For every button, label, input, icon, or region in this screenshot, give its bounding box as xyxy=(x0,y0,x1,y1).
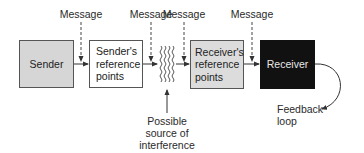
sender-label: Sender xyxy=(30,58,64,71)
sender-ref-line-2: reference xyxy=(96,58,140,71)
receiver-ref-line-1: Receiver's xyxy=(195,46,244,59)
message-label-3: Message xyxy=(163,8,206,20)
sender-ref-line-3: points xyxy=(96,70,140,83)
sender-reference-points-box: Sender's reference points xyxy=(89,40,143,88)
interference-line-1: Possible xyxy=(139,115,194,127)
receiver-reference-points-box: Receiver's reference points xyxy=(190,40,244,89)
interference-squiggle-icon xyxy=(160,46,174,82)
sender-ref-line-1: Sender's xyxy=(96,45,140,58)
message-label-4: Message xyxy=(231,8,274,20)
receiver-label: Receiver xyxy=(267,58,308,71)
feedback-line-1: Feedback xyxy=(277,103,323,115)
receiver-ref-line-3: points xyxy=(195,71,244,84)
receiver-ref-line-2: reference xyxy=(195,58,244,71)
feedback-line-2: loop xyxy=(277,115,323,127)
interference-line-2: source of xyxy=(139,127,194,139)
interference-line-3: interference xyxy=(139,139,194,151)
interference-caption: Possible source of interference xyxy=(139,115,194,151)
receiver-box: Receiver xyxy=(260,40,315,89)
feedback-caption: Feedback loop xyxy=(277,103,323,127)
message-label-1: Message xyxy=(60,8,103,20)
sender-box: Sender xyxy=(19,40,74,88)
